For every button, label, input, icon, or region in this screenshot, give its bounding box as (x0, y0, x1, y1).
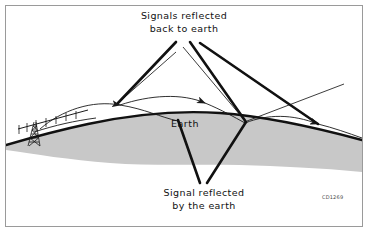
label-signal-reflected-by-the-earth: Signal reflected by the earth (164, 187, 245, 211)
label-signals-reflected-back-to-earth: Signals reflected back to earth (141, 10, 227, 34)
top-label-line1: Signals reflected (141, 10, 227, 21)
top-label-line2: back to earth (150, 23, 219, 34)
leader-top-left (118, 42, 176, 103)
figure-root: Signals reflected back to earth Earth Si… (0, 0, 370, 234)
ray-hop-2 (120, 96, 205, 105)
bottom-label-line1: Signal reflected (164, 187, 245, 198)
ray-up-right (247, 84, 344, 121)
bottom-label-line2: by the earth (172, 200, 235, 211)
earth-label: Earth (171, 118, 199, 129)
propagation-diagram: Signals reflected back to earth Earth Si… (0, 0, 370, 234)
ionospheric-rays (118, 43, 344, 123)
figure-reference-code: CD1269 (322, 194, 343, 200)
